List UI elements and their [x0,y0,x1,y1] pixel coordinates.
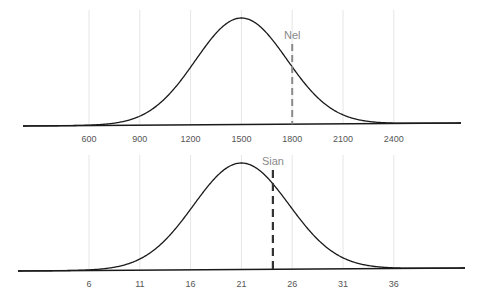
x-tick-label: 900 [132,134,147,144]
bottom-distribution-chart: Sian 6111621263136 [18,155,465,289]
top-marker-label: Nel [284,29,301,41]
top-gridlines [89,10,394,126]
charts-canvas: Nel 60090012001500180021002400 Sian 6111… [0,0,480,304]
x-tick-label: 1500 [231,134,251,144]
x-tick-label: 31 [338,279,348,289]
x-tick-label: 2400 [384,134,404,144]
bottom-gridlines [89,155,394,271]
x-tick-label: 1800 [282,134,302,144]
bottom-marker-label: Sian [262,155,284,167]
x-tick-label: 36 [389,279,399,289]
x-tick-label: 2100 [333,134,353,144]
x-tick-label: 600 [81,134,96,144]
top-x-axis-ticks: 60090012001500180021002400 [81,134,403,144]
x-tick-label: 1200 [181,134,201,144]
x-tick-label: 16 [186,279,196,289]
x-tick-label: 11 [135,279,144,289]
bottom-x-axis-ticks: 6111621263136 [86,279,398,289]
x-tick-label: 26 [287,279,297,289]
top-distribution-chart: Nel 60090012001500180021002400 [23,10,461,144]
x-tick-label: 21 [236,279,246,289]
x-tick-label: 6 [86,279,91,289]
